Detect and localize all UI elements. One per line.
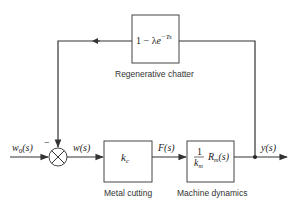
input-signal-label: w0(s) [12, 142, 33, 155]
feedback-path-left [58, 41, 100, 147]
block-diagram: w0(s) − w(s) kc Metal cutting F(s) 1 km … [0, 0, 298, 204]
machine-dynamics-label: Machine dynamics [177, 188, 247, 198]
feedback-minus-sign: − [44, 137, 50, 148]
force-signal-label: F(s) [157, 142, 175, 154]
summing-junction [49, 148, 67, 166]
output-signal-label: y(s) [260, 142, 277, 154]
error-signal-label: w(s) [73, 142, 91, 154]
regenerative-chatter-label: Regenerative chatter [115, 69, 194, 79]
feedback-path-right [179, 41, 255, 157]
feedback-direction-arrowhead [92, 38, 98, 44]
metal-cutting-label: Metal cutting [104, 188, 152, 198]
svg-text:Rm(s): Rm(s) [207, 151, 230, 163]
svg-text:1: 1 [197, 146, 202, 157]
